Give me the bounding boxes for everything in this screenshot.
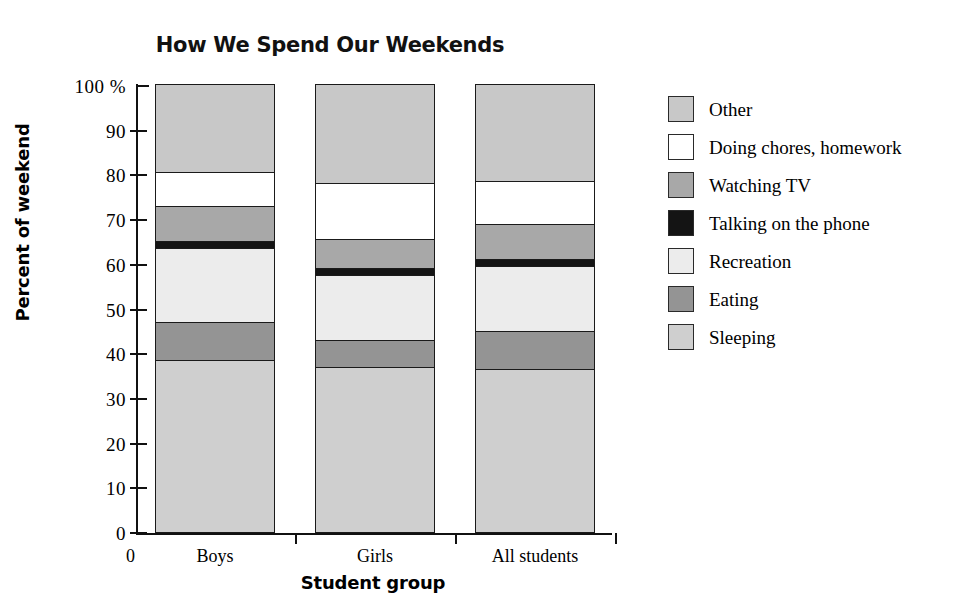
bar-segment-sleeping[interactable] <box>315 366 435 533</box>
bar-boys[interactable] <box>155 86 275 533</box>
legend: OtherDoing chores, homeworkWatching TVTa… <box>668 90 968 356</box>
x-axis-tick <box>615 533 617 544</box>
y-axis-tick-label: 80 <box>106 166 126 185</box>
legend-item[interactable]: Sleeping <box>668 318 968 356</box>
y-axis-tick-label: 50 <box>106 300 126 319</box>
legend-item[interactable]: Talking on the phone <box>668 204 968 242</box>
legend-item[interactable]: Watching TV <box>668 166 968 204</box>
y-axis-tick-label: 70 <box>106 211 126 230</box>
bar-girls[interactable] <box>315 86 435 533</box>
y-axis-title: Percent of weekend <box>12 123 33 323</box>
y-axis-tick <box>130 219 147 221</box>
legend-swatch-icon <box>668 134 694 160</box>
y-axis-tick-label: 100 % <box>74 77 126 96</box>
legend-item[interactable]: Other <box>668 90 968 128</box>
legend-swatch-icon <box>668 324 694 350</box>
y-axis-tick <box>130 443 147 445</box>
legend-label: Eating <box>709 290 759 309</box>
bar-segment-watching-tv[interactable] <box>315 239 435 270</box>
y-axis-tick <box>130 130 147 132</box>
y-axis-tick <box>136 85 149 87</box>
y-axis-tick <box>130 309 147 311</box>
bar-segment-doing-chores-homework[interactable] <box>315 183 435 240</box>
x-axis-line <box>136 533 612 535</box>
bar-segment-sleeping[interactable] <box>155 359 275 533</box>
legend-label: Recreation <box>709 252 791 271</box>
y-axis-tick-label: 60 <box>106 255 126 274</box>
y-axis-tick <box>130 353 147 355</box>
x-axis-label-girls: Girls <box>357 546 393 567</box>
y-axis-tick-label: 10 <box>106 479 126 498</box>
bar-segment-eating[interactable] <box>315 339 435 367</box>
legend-item[interactable]: Recreation <box>668 242 968 280</box>
y-axis-tick-label: 30 <box>106 389 126 408</box>
legend-swatch-icon <box>668 172 694 198</box>
bar-segment-eating[interactable] <box>155 321 275 361</box>
chart-canvas: How We Spend Our Weekends 01020304050607… <box>0 0 970 600</box>
bar-segment-sleeping[interactable] <box>475 368 595 533</box>
y-axis-tick <box>130 264 147 266</box>
legend-item[interactable]: Eating <box>668 280 968 318</box>
bar-segment-doing-chores-homework[interactable] <box>475 181 595 225</box>
y-axis-tick-label: 40 <box>106 345 126 364</box>
y-axis-tick-label: 20 <box>106 434 126 453</box>
legend-swatch-icon <box>668 96 694 122</box>
bar-all-students[interactable] <box>475 86 595 533</box>
legend-label: Other <box>709 100 752 119</box>
x-axis-label-boys: Boys <box>196 546 233 567</box>
bar-segment-eating[interactable] <box>475 330 595 370</box>
bar-segment-watching-tv[interactable] <box>475 223 595 260</box>
legend-label: Sleeping <box>709 328 776 347</box>
plot-area: 0102030405060708090100 % <box>138 86 608 533</box>
legend-label: Doing chores, homework <box>709 138 902 157</box>
bar-segment-doing-chores-homework[interactable] <box>155 172 275 207</box>
legend-swatch-icon <box>668 286 694 312</box>
bar-segment-recreation[interactable] <box>155 248 275 323</box>
legend-label: Watching TV <box>709 176 811 195</box>
x-axis-origin-label: 0 <box>126 546 135 567</box>
bar-segment-other[interactable] <box>475 84 595 182</box>
legend-swatch-icon <box>668 248 694 274</box>
y-axis-tick <box>130 487 147 489</box>
y-axis-tick <box>130 174 147 176</box>
legend-swatch-icon <box>668 210 694 236</box>
x-axis-tick <box>295 533 297 544</box>
bar-segment-recreation[interactable] <box>315 274 435 340</box>
bar-segment-recreation[interactable] <box>475 265 595 331</box>
y-axis-tick <box>130 398 147 400</box>
x-axis-label-all-students: All students <box>492 546 579 567</box>
page-title: How We Spend Our Weekends <box>0 33 660 57</box>
y-axis-tick-label: 90 <box>106 121 126 140</box>
legend-item[interactable]: Doing chores, homework <box>668 128 968 166</box>
bar-segment-other[interactable] <box>315 84 435 184</box>
bar-segment-watching-tv[interactable] <box>155 205 275 242</box>
y-axis-tick <box>130 532 147 534</box>
y-axis-tick-label: 0 <box>116 524 126 543</box>
bar-segment-other[interactable] <box>155 84 275 173</box>
x-axis-title: Student group <box>138 572 608 593</box>
legend-label: Talking on the phone <box>709 214 870 233</box>
x-axis-tick <box>455 533 457 544</box>
